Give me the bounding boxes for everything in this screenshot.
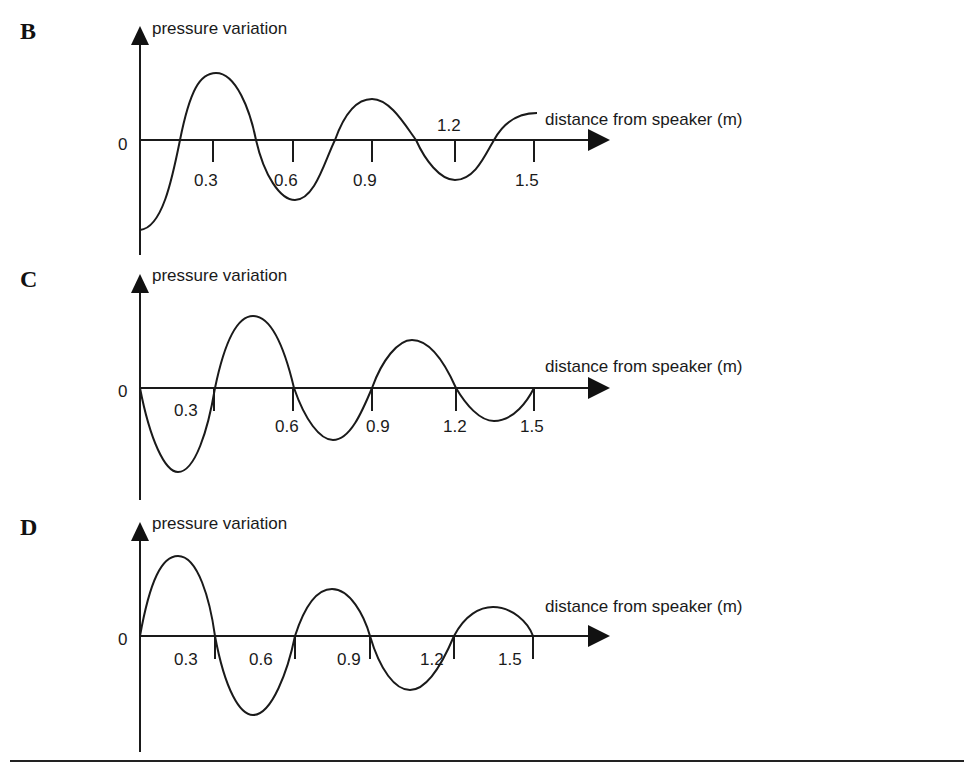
zero-label-c: 0 — [118, 383, 127, 400]
tick-label-d-1.2: 1.2 — [420, 651, 444, 668]
zero-label-b: 0 — [118, 136, 127, 153]
divider-line — [10, 760, 964, 762]
tick-label-c-1.5: 1.5 — [520, 418, 544, 435]
tick-label-c-0.6: 0.6 — [275, 418, 299, 435]
wave-c — [140, 316, 534, 472]
tick-label-c-0.9: 0.9 — [366, 418, 390, 435]
x-axis-label-d: distance from speaker (m) — [545, 598, 742, 615]
y-axis-label-b: pressure variation — [152, 20, 287, 37]
x-arrow-c-icon — [588, 377, 610, 399]
graph-d — [140, 536, 595, 752]
answer-options-diagram: B pressure variation 0 0.3 0.6 0.9 1.2 1… — [0, 0, 964, 775]
x-arrow-b-icon — [588, 129, 610, 151]
x-axis-label-c: distance from speaker (m) — [545, 358, 742, 375]
tick-label-d-0.3: 0.3 — [174, 651, 198, 668]
option-letter-d: D — [20, 514, 37, 541]
tick-label-c-1.2: 1.2 — [443, 418, 467, 435]
y-axis-label-d: pressure variation — [152, 515, 287, 532]
y-arrow-b-icon — [131, 26, 149, 45]
tick-label-d-1.5: 1.5 — [498, 651, 522, 668]
x-arrow-d-icon — [588, 625, 610, 647]
tick-label-d-0.9: 0.9 — [337, 651, 361, 668]
option-letter-c: C — [20, 266, 37, 293]
tick-label-c-0.3: 0.3 — [174, 402, 198, 419]
x-axis-label-b: distance from speaker (m) — [545, 111, 742, 128]
wave-b — [140, 73, 537, 230]
y-arrow-c-icon — [131, 274, 149, 293]
tick-label-b-1.5: 1.5 — [515, 172, 539, 189]
tick-label-d-0.6: 0.6 — [249, 651, 273, 668]
zero-label-d: 0 — [118, 631, 127, 648]
graphs-canvas — [0, 0, 964, 775]
tick-label-b-0.3: 0.3 — [194, 172, 218, 189]
option-letter-b: B — [20, 18, 36, 45]
y-axis-label-c: pressure variation — [152, 267, 287, 284]
y-arrow-d-icon — [131, 522, 149, 541]
tick-label-b-0.9: 0.9 — [353, 172, 377, 189]
graph-b — [140, 40, 595, 255]
tick-label-b-0.6: 0.6 — [274, 172, 298, 189]
tick-label-b-1.2: 1.2 — [437, 117, 461, 134]
graph-c — [140, 288, 595, 500]
